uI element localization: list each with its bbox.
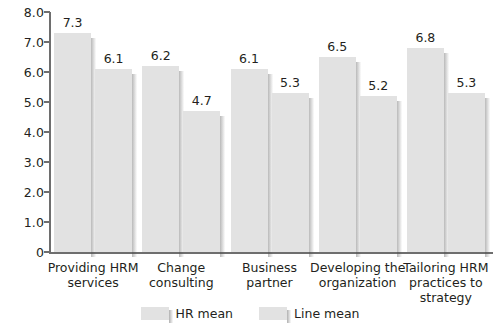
bar-value-label: 6.2 xyxy=(151,48,171,63)
legend-item-line-mean: Line mean xyxy=(259,306,359,321)
bar-value-label: 5.3 xyxy=(456,75,476,90)
bar xyxy=(360,96,397,252)
bar xyxy=(407,48,444,252)
bar xyxy=(231,69,268,252)
plot-area: 01.02.03.04.05.06.07.08.0 7.36.16.24.76.… xyxy=(0,0,500,330)
y-axis-tick xyxy=(44,221,50,223)
bar xyxy=(183,111,220,252)
y-axis-tick xyxy=(44,251,50,253)
y-axis-tick-label: 3.0 xyxy=(4,155,44,170)
y-axis-tick xyxy=(44,131,50,133)
y-axis-tick-label: 1.0 xyxy=(4,215,44,230)
bar-chart: 01.02.03.04.05.06.07.08.0 7.36.16.24.76.… xyxy=(0,0,500,330)
bar xyxy=(95,69,132,252)
y-axis-tick xyxy=(44,41,50,43)
bar-value-label: 6.1 xyxy=(104,51,124,66)
y-axis-tick-label: 7.0 xyxy=(4,35,44,50)
bar-value-label: 5.2 xyxy=(368,78,388,93)
chart-legend: HR mean Line mean xyxy=(0,306,500,321)
y-axis-tick-label: 6.0 xyxy=(4,65,44,80)
y-axis-tick xyxy=(44,161,50,163)
y-axis-tick-label: 0 xyxy=(4,245,44,260)
y-axis-tick-label: 8.0 xyxy=(4,5,44,20)
bar-value-label: 5.3 xyxy=(280,75,300,90)
bar xyxy=(272,93,309,252)
y-axis-tick xyxy=(44,101,50,103)
legend-label: Line mean xyxy=(294,306,359,321)
legend-swatch-icon xyxy=(259,307,287,320)
x-axis-category-label: Developing the organization xyxy=(307,260,409,290)
bar-value-label: 7.3 xyxy=(63,15,83,30)
y-axis-tick xyxy=(44,71,50,73)
x-axis-category-label: Providing HRM services xyxy=(42,260,144,290)
bar-value-label: 6.8 xyxy=(415,30,435,45)
bar xyxy=(319,57,356,252)
x-axis-category-label: Tailoring HRM practices to strategy xyxy=(395,260,497,305)
legend-label: HR mean xyxy=(176,306,234,321)
x-axis-category-label: Change consulting xyxy=(130,260,232,290)
bar-value-label: 4.7 xyxy=(192,93,212,108)
x-axis-category-label: Business partner xyxy=(218,260,320,290)
bar xyxy=(142,66,179,252)
y-axis-tick-label: 2.0 xyxy=(4,185,44,200)
bar-value-label: 6.1 xyxy=(239,51,259,66)
bar xyxy=(54,33,91,252)
bar xyxy=(448,93,485,252)
bar-value-label: 6.5 xyxy=(327,39,347,54)
y-axis-tick xyxy=(44,191,50,193)
legend-swatch-icon xyxy=(141,307,169,320)
y-axis-tick-label: 5.0 xyxy=(4,95,44,110)
y-axis-tick-label: 4.0 xyxy=(4,125,44,140)
y-axis-tick xyxy=(44,11,50,13)
legend-item-hr-mean: HR mean xyxy=(141,306,234,321)
